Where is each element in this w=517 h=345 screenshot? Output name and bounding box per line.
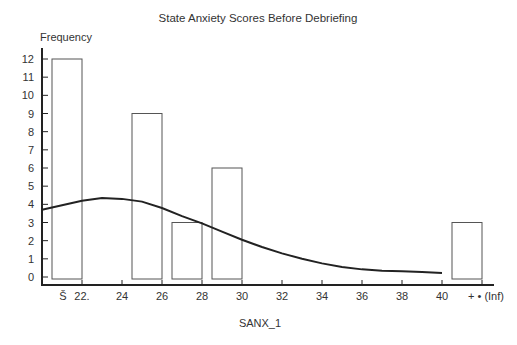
x-tick-label: 36 (356, 290, 368, 302)
histogram-bar (212, 168, 242, 279)
histogram-bar (52, 59, 82, 279)
x-tick-label: 32 (276, 290, 288, 302)
y-tick-label: 9 (28, 108, 34, 120)
x-tick-label: 28 (196, 290, 208, 302)
x-tick-label: 38 (396, 290, 408, 302)
x-tick-label: 26 (156, 290, 168, 302)
y-axis: 0123456789101112 (22, 48, 48, 286)
y-tick-label: 8 (28, 126, 34, 138)
x-tick-label: + • (Inf) (468, 290, 504, 302)
histogram-bar (132, 114, 162, 280)
chart-title: State Anxiety Scores Before Debriefing (159, 12, 358, 24)
x-tick-label: 40 (436, 290, 448, 302)
x-tick-label: 34 (316, 290, 328, 302)
x-tick-label: 24 (116, 290, 128, 302)
y-tick-label: 4 (28, 198, 34, 210)
y-tick-label: 7 (28, 144, 34, 156)
y-tick-label: 3 (28, 217, 34, 229)
x-axis-label: SANX_1 (239, 317, 281, 329)
y-tick-label: 0 (28, 271, 34, 283)
x-tick-label: 30 (236, 290, 248, 302)
y-tick-label: 10 (22, 89, 34, 101)
histogram-bar (172, 223, 202, 280)
x-axis: Š22.242628303234363840+ • (Inf) (41, 280, 504, 302)
histogram-bar (452, 223, 482, 280)
x-tick-label: 22. (74, 290, 89, 302)
y-axis-label: Frequency (40, 31, 92, 43)
y-tick-label: 6 (28, 162, 34, 174)
y-tick-label: 5 (28, 180, 34, 192)
y-tick-label: 2 (28, 235, 34, 247)
y-tick-label: 11 (23, 71, 34, 83)
x-tick-label: Š (59, 290, 66, 302)
y-tick-label: 1 (28, 253, 34, 265)
bars (52, 59, 482, 279)
histogram-chart: State Anxiety Scores Before Debriefing F… (0, 0, 517, 345)
y-tick-label: 12 (22, 53, 34, 65)
